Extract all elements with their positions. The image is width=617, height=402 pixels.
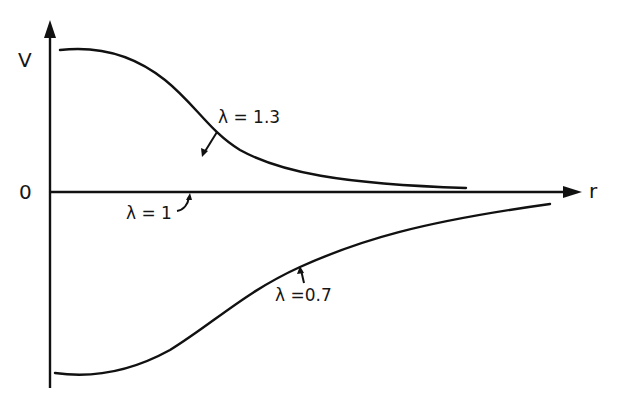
v-axis-arrow-icon — [44, 20, 56, 38]
origin-label: 0 — [19, 180, 32, 204]
label-lambda-0-7: λ =0.7 — [275, 285, 332, 305]
r-axis-arrow-icon — [563, 186, 582, 198]
label-lambda-1-3: λ = 1.3 — [218, 107, 280, 127]
pointer-lambda-1-3 — [204, 132, 217, 153]
label-lambda-1: λ = 1 — [126, 203, 172, 223]
pointer-arrow-icon — [186, 193, 192, 200]
x-axis-label: r — [589, 179, 597, 203]
y-axis-label: V — [18, 48, 32, 72]
potential-diagram — [0, 0, 617, 402]
